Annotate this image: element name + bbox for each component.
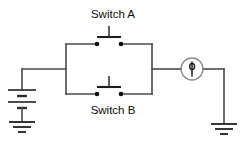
switch-a[interactable] (95, 26, 124, 46)
switch-b[interactable] (95, 76, 124, 96)
switch-b-label: Switch B (91, 104, 136, 116)
right-load-wiring (152, 69, 224, 124)
left-supply-wiring (22, 69, 66, 90)
battery (8, 90, 36, 108)
circuit-schematic-canvas: Switch A Switch B (0, 0, 245, 160)
switch-a-label: Switch A (91, 8, 135, 20)
circuit-diagram: Switch A Switch B (0, 0, 245, 160)
ground-left-icon (9, 122, 35, 132)
switch-a-terminal-left (95, 42, 100, 47)
switch-a-terminal-right (119, 42, 124, 47)
switch-b-terminal-left (95, 92, 100, 97)
ground-right-icon (211, 124, 237, 134)
switch-b-terminal-right (119, 92, 124, 97)
lamp (181, 58, 203, 80)
